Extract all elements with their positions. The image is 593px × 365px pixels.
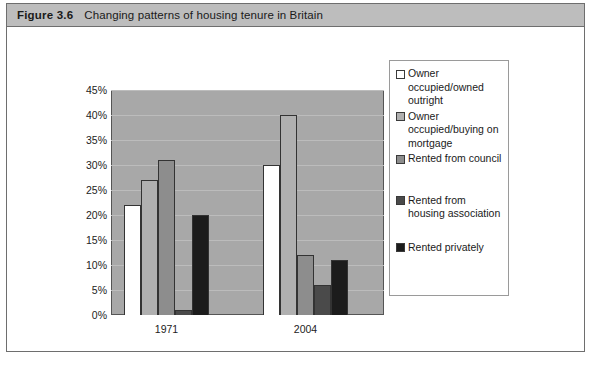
bar[interactable]	[124, 205, 141, 315]
legend-item[interactable]: Rented from council	[396, 152, 504, 166]
legend-swatch-icon	[396, 112, 405, 121]
y-tick-label: 45%	[63, 84, 107, 96]
bar[interactable]	[263, 165, 280, 315]
y-axis: 0%5%10%15%20%25%30%35%40%45%	[59, 90, 107, 315]
legend-label: Owner occupied/owned outright	[408, 67, 504, 108]
legend-swatch-icon	[396, 70, 405, 79]
x-tick-label-2004: 2004	[263, 323, 348, 335]
bar-group-2004	[263, 90, 348, 315]
legend-swatch-icon	[396, 196, 405, 205]
bar-group-1971	[124, 90, 209, 315]
figure-caption-bar: Figure 3.6 Changing patterns of housing …	[7, 4, 584, 27]
figure-frame: Figure 3.6 Changing patterns of housing …	[6, 3, 585, 352]
chart-legend: Owner occupied/owned outrightOwner occup…	[389, 60, 509, 296]
legend-label: Rented from housing association	[408, 194, 504, 221]
legend-item[interactable]: Owner occupied/owned outright	[396, 67, 504, 108]
bar[interactable]	[175, 310, 192, 315]
legend-label: Rented privately	[408, 241, 484, 255]
legend-item[interactable]: Rented privately	[396, 241, 504, 255]
y-tick-label: 35%	[63, 134, 107, 146]
y-tick-label: 20%	[63, 209, 107, 221]
y-tick-label: 0%	[63, 309, 107, 321]
figure-title: Changing patterns of housing tenure in B…	[84, 9, 323, 21]
y-tick-label: 5%	[63, 284, 107, 296]
legend-swatch-icon	[396, 155, 405, 164]
bar[interactable]	[280, 115, 297, 315]
y-tick-label: 15%	[63, 234, 107, 246]
x-tick-label-1971: 1971	[124, 323, 209, 335]
bars-layer	[111, 90, 384, 315]
y-tick-label: 10%	[63, 259, 107, 271]
bar[interactable]	[141, 180, 158, 315]
legend-swatch-icon	[396, 243, 405, 252]
bar[interactable]	[192, 215, 209, 315]
y-tick-label: 30%	[63, 159, 107, 171]
plot-area	[111, 90, 384, 315]
bar[interactable]	[331, 260, 348, 315]
legend-item[interactable]: Owner occupied/buying on mortgage	[396, 110, 504, 151]
y-tick-label: 40%	[63, 109, 107, 121]
y-tick-label: 25%	[63, 184, 107, 196]
legend-item[interactable]: Rented from housing association	[396, 194, 504, 221]
bar[interactable]	[158, 160, 175, 315]
bar[interactable]	[314, 285, 331, 315]
bar[interactable]	[297, 255, 314, 315]
chart-area: 0%5%10%15%20%25%30%35%40%45% 19712004 Ow…	[7, 27, 584, 351]
legend-label: Owner occupied/buying on mortgage	[408, 110, 504, 151]
legend-label: Rented from council	[408, 152, 501, 166]
figure-number: Figure 3.6	[17, 9, 73, 21]
